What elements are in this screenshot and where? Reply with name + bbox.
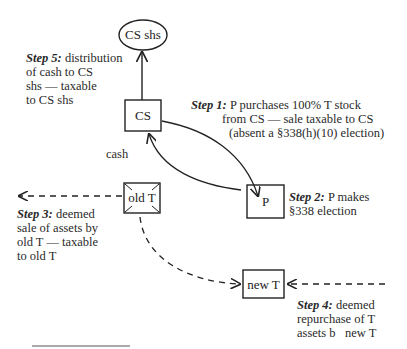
cs-shs-label: CS shs: [119, 27, 167, 43]
old-t-label: old T: [124, 190, 160, 206]
step-2-annotation: Step 2: P makes §338 election: [289, 190, 369, 218]
step-3-annotation: Step 3: deemed sale of assets by old T —…: [17, 207, 98, 263]
step-1-label: Step 1:: [191, 98, 227, 112]
cs-label: CS: [125, 108, 161, 124]
cash-label: cash: [106, 147, 128, 161]
step-5-label: Step 5:: [26, 51, 62, 65]
step-1-annotation: Step 1: P purchases 100% T stock from CS…: [191, 98, 384, 140]
old-to-new-t-arrow: [140, 217, 240, 284]
step-4-label: Step 4:: [297, 298, 333, 312]
new-t-label: new T: [243, 277, 284, 293]
step-5-annotation: Step 5: distribution of cash to CS shs —…: [26, 51, 123, 107]
cash-arrow: [149, 134, 241, 190]
step-2-label: Step 2:: [289, 190, 325, 204]
step-3-label: Step 3:: [17, 207, 53, 221]
step-4-annotation: Step 4: deemed repurchase of T assets b …: [297, 298, 376, 340]
p-label: P: [247, 194, 284, 210]
